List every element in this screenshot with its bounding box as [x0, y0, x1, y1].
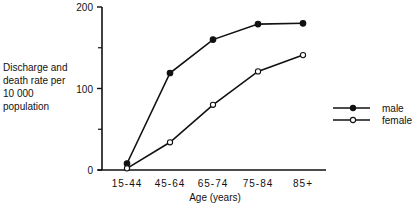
- line-chart: 010020015-4445-6465-7475-8485+Age (years…: [0, 0, 413, 206]
- x-tick-label: 45-64: [155, 178, 186, 189]
- series-group: [124, 21, 306, 171]
- x-tick-label: 85+: [293, 178, 313, 189]
- y-tick-label: 100: [76, 84, 93, 95]
- male-marker: [210, 37, 216, 43]
- legend: malefemale: [333, 103, 412, 126]
- female-marker: [255, 69, 260, 74]
- x-tick-label: 15-44: [112, 178, 143, 189]
- x-axis-label: Age (years): [189, 192, 241, 203]
- legend-marker: [350, 117, 355, 122]
- male-marker: [255, 21, 261, 27]
- male-marker: [300, 21, 306, 27]
- legend-label: male: [382, 103, 404, 114]
- male-marker: [167, 70, 173, 76]
- female-marker: [124, 166, 129, 171]
- female-marker: [167, 140, 172, 145]
- female-line: [127, 55, 303, 168]
- female-marker: [210, 102, 215, 107]
- legend-marker: [350, 105, 355, 110]
- x-tick-label: 75-84: [243, 178, 274, 189]
- x-tick-label: 65-74: [198, 178, 229, 189]
- y-tick-label: 0: [87, 165, 93, 176]
- axes: 010020015-4445-6465-7475-8485+Age (years…: [76, 2, 326, 203]
- y-tick-label: 200: [76, 2, 93, 13]
- legend-label: female: [382, 115, 412, 126]
- male-line: [127, 23, 303, 163]
- female-marker: [300, 52, 305, 57]
